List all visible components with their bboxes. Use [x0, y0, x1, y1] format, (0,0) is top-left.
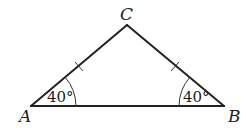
angle-label-b: 40° — [183, 88, 210, 106]
vertex-label-a: A — [17, 106, 31, 126]
triangle-diagram: 40° 40° A B C — [0, 0, 246, 128]
side-ac — [31, 25, 127, 106]
vertex-label-b: B — [227, 106, 241, 126]
vertex-label-c: C — [120, 4, 133, 24]
angle-label-a: 40° — [47, 88, 74, 106]
triangle-svg: 40° 40° A B C — [0, 0, 246, 128]
